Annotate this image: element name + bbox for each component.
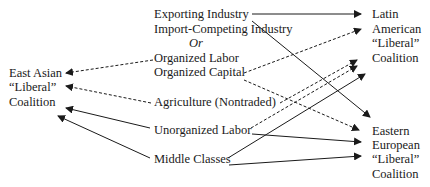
edge-unorganized-labor-to-eastern	[252, 134, 361, 142]
coalition-latin-line-4: Coalition	[372, 51, 419, 66]
node-unorganized-labor: Unorganized Labor	[154, 123, 251, 138]
node-agriculture: Agriculture (Nontraded)	[154, 95, 276, 110]
coalition-diagram: Exporting Industry Import-Competing Indu…	[0, 0, 430, 187]
coalition-latin-line-2: American	[372, 22, 421, 37]
edge-middle-classes-to-east-asian	[58, 116, 150, 158]
node-organized-capital: Organized Capital	[154, 65, 245, 80]
coalition-eastern-line-3: “Liberal”	[372, 152, 419, 167]
edge-organized-labor-to-east-asian	[66, 60, 153, 73]
edge-middle-classes-to-eastern	[229, 156, 361, 165]
node-middle-classes: Middle Classes	[154, 152, 231, 167]
edge-middle-classes-to-latin	[228, 74, 365, 158]
coalition-east-asian-line-3: Coalition	[9, 95, 56, 110]
coalition-latin-line-3: “Liberal”	[372, 36, 419, 51]
edge-agriculture-to-east-asian	[66, 86, 151, 103]
coalition-eastern-line-2: European	[372, 138, 420, 153]
coalition-eastern-line-1: Eastern	[372, 124, 409, 139]
connector-or: Or	[189, 36, 203, 51]
coalition-east-asian-line-2: “Liberal”	[9, 80, 56, 95]
node-organized-labor: Organized Labor	[154, 51, 239, 66]
coalition-east-asian-line-1: East Asian	[9, 66, 62, 81]
coalition-eastern-line-4: Coalition	[372, 167, 419, 182]
node-import-competing-industry: Import-Competing Industry	[154, 22, 293, 37]
coalition-latin-line-1: Latin	[372, 7, 398, 22]
node-exporting-industry: Exporting Industry	[154, 7, 249, 22]
